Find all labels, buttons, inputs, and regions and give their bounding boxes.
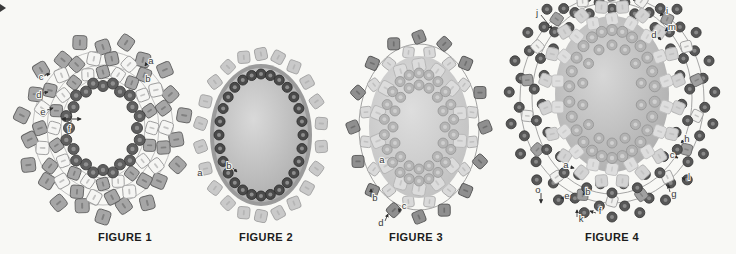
label-arrow [676,157,678,158]
bead-hole [292,95,296,99]
bead-hole [300,147,304,151]
bead-hole [147,144,152,146]
bead-hole [581,103,585,107]
bead-hole [241,78,245,82]
bead-hole [639,103,643,107]
bead-hole [600,154,604,158]
figure-3-caption: FIGURE 3 [389,231,443,243]
bead-hole [562,171,566,175]
bead-hole [233,181,237,185]
bead-hole [678,25,682,29]
part-label-d: d [651,29,656,40]
bead-hole [111,170,115,174]
bead-hole [610,141,614,145]
bead-hole [417,167,421,171]
bead-hole [138,114,142,118]
bead-hole [297,107,301,111]
bead-hole [301,133,305,137]
bead-hole [128,158,132,162]
figure-3: abcd [345,29,493,228]
bead-hole [539,56,543,60]
bead-hole [449,147,453,151]
bead-hole [443,208,445,213]
bead-hole [623,136,627,140]
part-label-m: m [668,21,676,32]
bead-hole [277,188,281,192]
bead-hole [443,125,447,129]
bead-hole [233,85,237,89]
part-label-j: j [535,7,538,18]
bead-hole [567,84,571,88]
bead-hole [638,211,642,215]
bead-hole [285,181,289,185]
bead-hole [441,141,445,145]
bead-hole [623,48,627,52]
bead-hole [319,122,324,124]
bead-hole [581,140,585,144]
bead-hole [681,56,685,60]
bead-hole [398,80,402,84]
bead-hole [64,114,68,118]
bead-hole [417,83,421,87]
bead-hole [138,138,142,142]
bead-hole [513,59,517,63]
bead-hole [382,133,386,137]
bead-hole [600,30,604,34]
bead-hole [509,122,513,126]
bead-hole [645,55,649,59]
bead-hole [268,74,272,78]
bead-hole [562,7,566,11]
bead-hole [610,191,614,195]
bead-hole [91,81,95,85]
bead-hole [128,93,132,97]
bead-hole [427,164,431,168]
bead-hole [399,155,403,159]
bead-hole [427,86,431,90]
bead-hole [590,35,594,39]
part-label-g: g [671,188,676,199]
bead-hole [259,72,263,76]
bead-hole [391,160,395,164]
bead-hole [268,192,272,196]
bead-hole [698,134,702,138]
part-label-a: a [563,159,569,170]
part-label-a: a [197,167,203,178]
bead-hole [664,198,668,202]
bead-hole [610,156,614,160]
part-label-c: c [39,71,44,82]
bead-hole [443,90,447,94]
bead-hole [130,147,134,151]
figure-2-caption: FIGURE 2 [239,231,293,243]
bead-hole [688,87,692,91]
bead-hole [435,155,439,159]
diagram-canvas: abcdefababcdjimdhclgaoebkf [0,0,736,254]
bead-hole [555,80,560,82]
bead-hole [686,119,690,123]
bead-hole [573,196,577,200]
bead-hole [570,69,574,73]
part-label-a: a [148,55,154,66]
bead-hole [633,123,637,127]
bead-hole [574,55,578,59]
bead-hole [652,100,656,104]
bead-hole [64,138,68,142]
bead-hole [54,110,59,112]
bead-hole [519,152,523,156]
bead-hole [277,78,281,82]
bead-hole [587,61,591,65]
bead-hole [417,179,421,183]
bead-hole [417,71,421,75]
bead-hole [435,95,439,99]
bead-hole [407,73,411,77]
bead-hole [574,128,578,132]
bead-hole [658,7,662,11]
bead-hole [701,152,705,156]
bead-hole [526,31,530,35]
bead-hole [87,72,89,77]
bead-hole [620,30,624,34]
bead-hole [581,44,585,48]
bead-hole [567,100,571,104]
bead-hole [610,28,614,32]
bead-hole [81,203,83,209]
bead-hole [443,160,447,164]
